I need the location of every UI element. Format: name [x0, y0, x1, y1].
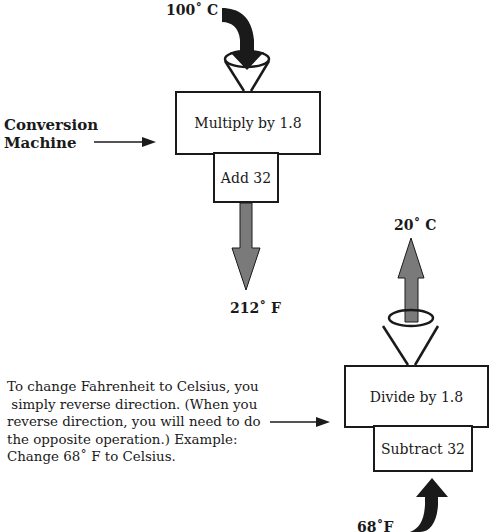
explanation-paragraph: To change Fahrenheit to Celsius, you sim…: [7, 378, 261, 466]
step-divide-box: Divide by 1.8: [344, 365, 489, 428]
step-multiply-box: Multiply by 1.8: [175, 91, 321, 155]
arrow-to-conversion-machine: [94, 137, 156, 147]
output-temp-fahrenheit: 212˚ F: [230, 300, 281, 316]
conversion-machine-label-line2: Machine: [4, 134, 98, 152]
step-add-label: Add 32: [221, 170, 271, 186]
arrow-to-reverse-machine: [270, 417, 330, 427]
explanation-line: Change 68˚ F to Celsius.: [7, 448, 261, 466]
explanation-line: reverse direction, you will need to do: [7, 413, 261, 431]
input-temp-fahrenheit: 68˚F: [357, 519, 393, 532]
curved-input-arrow-bottom: [410, 478, 448, 532]
explanation-line: simply reverse direction. (When you: [7, 396, 261, 414]
explanation-line: the opposite operation.) Example:: [7, 431, 261, 449]
output-arrow-down: [232, 203, 260, 290]
step-multiply-label: Multiply by 1.8: [194, 115, 301, 131]
conversion-machine-label: Conversion Machine: [4, 116, 98, 152]
step-divide-label: Divide by 1.8: [370, 389, 463, 405]
step-add-box: Add 32: [213, 152, 279, 203]
input-temp-celsius: 100˚ C: [166, 2, 218, 18]
conversion-machine-label-line1: Conversion: [4, 116, 98, 134]
curved-input-arrow-top: [222, 8, 264, 70]
explanation-line: To change Fahrenheit to Celsius, you: [7, 378, 261, 396]
step-subtract-box: Subtract 32: [373, 425, 473, 472]
step-subtract-label: Subtract 32: [381, 441, 465, 457]
output-temp-celsius: 20˚ C: [394, 217, 437, 233]
